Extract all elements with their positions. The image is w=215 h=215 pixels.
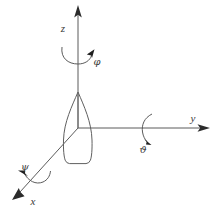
y-axis-label: y [190, 112, 196, 124]
theta-rotation-label: ϑ [139, 144, 146, 155]
body-base [65, 160, 90, 163]
coordinate-system-diagram: z y x φ ϑ ψ [0, 0, 215, 215]
phi-rotation-label: φ [93, 56, 100, 67]
x-axis-arrowhead [12, 188, 25, 200]
z-axis-label: z [60, 22, 66, 34]
body-right-flank [78, 92, 92, 160]
body-left-flank [63, 92, 78, 160]
y-axis [78, 124, 210, 132]
psi-rotation-label: ψ [21, 161, 29, 172]
phi-rotation-arc [62, 47, 92, 64]
theta-rotation [142, 114, 152, 145]
x-axis-line [20, 128, 78, 192]
x-axis-label: x [30, 195, 36, 207]
